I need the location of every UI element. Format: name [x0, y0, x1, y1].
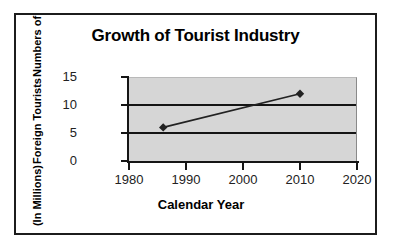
- series-line: [163, 94, 300, 128]
- data-point-marker-2010[interactable]: [296, 90, 304, 98]
- data-series-layer: [16, 15, 379, 237]
- series-foreign-tourists: [159, 90, 304, 132]
- data-point-marker-1986[interactable]: [159, 123, 167, 131]
- chart-frame: Growth of Tourist Industry (In Millions)…: [14, 13, 377, 235]
